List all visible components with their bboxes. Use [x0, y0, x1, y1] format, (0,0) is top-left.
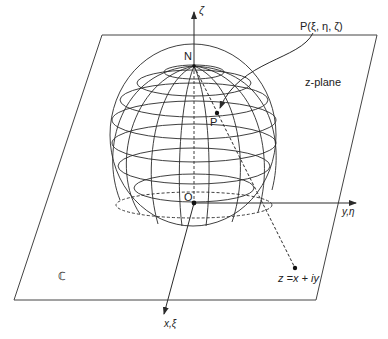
point-P-label: P	[210, 116, 217, 128]
plane-name-label: z-plane	[305, 76, 341, 88]
complex-plane-symbol: ℂ	[58, 270, 66, 282]
zeta-axis-label: ζ	[199, 4, 205, 17]
z-point-label: z =x + iy	[277, 272, 320, 284]
origin-label: O	[184, 191, 193, 203]
x-axis-label: x,ξ	[163, 318, 177, 330]
complex-plane	[14, 35, 377, 300]
north-pole-label: N	[184, 50, 192, 62]
y-axis-label: y,η	[341, 206, 355, 217]
riemann-sphere	[110, 44, 276, 226]
point-P-coords-label: P(ξ, η, ζ)	[300, 20, 343, 32]
point-P	[215, 111, 219, 115]
point-z	[293, 266, 297, 270]
x-xi-axis	[164, 203, 194, 314]
riemann-sphere-diagram: ζ N P(ξ, η, ζ) P O z-plane y,η x,ξ ℂ z =…	[0, 0, 388, 339]
point-N	[192, 64, 196, 68]
